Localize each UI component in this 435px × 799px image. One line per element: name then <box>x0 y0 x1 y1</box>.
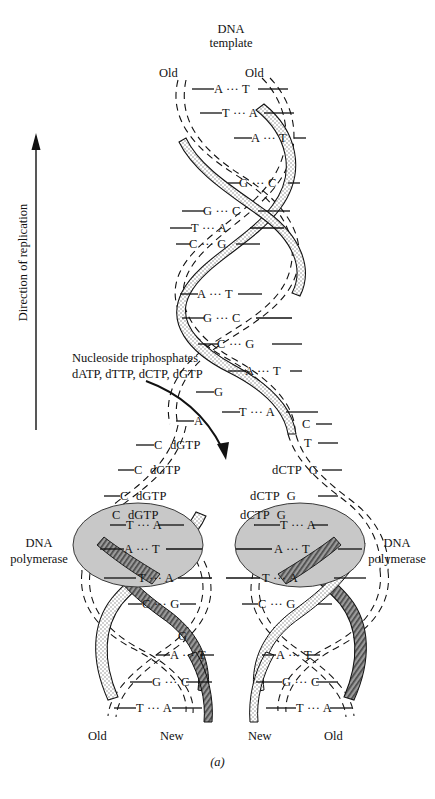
base-pair: G ··· C <box>239 176 277 191</box>
base-pair: A ··· T <box>251 131 287 146</box>
label-new-right-bottom: New <box>248 729 272 743</box>
direction-of-replication-label: Direction of replication <box>16 178 31 348</box>
base-pair: A ··· T <box>170 648 206 663</box>
nucleoside-triphosphates-annotation: Nucleoside triphosphates dATP, dTTP, dCT… <box>72 350 203 383</box>
base-pair: T ··· A <box>222 106 258 121</box>
panel-letter: (a) <box>0 755 435 770</box>
base-pair: T ··· A <box>296 701 332 716</box>
label-old-left-top: Old <box>159 66 178 80</box>
label-old-right-bottom: Old <box>324 729 343 743</box>
unpaired-base-with-reagent: C dGTP <box>134 463 181 478</box>
base-pair: A ··· T <box>245 364 281 379</box>
unpaired-base: A <box>194 414 203 429</box>
base-pair: T ··· A <box>280 518 316 533</box>
dna-polymerase-label-right: DNA polymerase <box>364 536 430 567</box>
direction-of-replication-arrow <box>32 133 41 430</box>
label-old-left-bottom: Old <box>88 729 107 743</box>
unpaired-base: T <box>304 436 312 451</box>
unpaired-base: G <box>178 629 187 644</box>
unpaired-base-with-reagent: dCTP G <box>250 489 296 504</box>
base-pair: T ··· A <box>126 518 162 533</box>
base-pair: C ··· G <box>217 337 255 352</box>
base-pair: G ··· C <box>203 311 241 326</box>
base-pair: T ··· A <box>239 405 275 420</box>
dna-replication-figure: DNA template Old Old Direction of replic… <box>0 0 435 799</box>
base-pair: T ··· A <box>262 571 298 586</box>
unpaired-base-with-reagent: dCTP G <box>272 463 318 478</box>
base-pair: C ··· G <box>258 597 296 612</box>
unpaired-base-with-reagent: C dGTP <box>120 489 167 504</box>
dna-polymerase-label-left: DNA polymerase <box>8 536 70 567</box>
base-pair: A ··· T <box>276 648 312 663</box>
label-old-right-top: Old <box>245 66 264 80</box>
base-pair: A ··· T <box>124 542 160 557</box>
base-pair: G ··· C <box>152 675 190 690</box>
base-pair: C ··· G <box>142 597 180 612</box>
base-pair: A ··· T <box>197 287 233 302</box>
base-pair: A ··· T <box>214 82 250 97</box>
unpaired-base: G <box>214 385 223 400</box>
base-pair: T ··· A <box>136 701 172 716</box>
base-pair: G ··· C <box>282 675 320 690</box>
label-new-left-bottom: New <box>160 729 184 743</box>
base-pair: A ··· T <box>274 542 310 557</box>
base-pair: T ··· A <box>138 571 174 586</box>
base-pair: C ··· G <box>189 237 227 252</box>
unpaired-base: C <box>302 417 311 432</box>
base-pair: T ··· A <box>191 221 227 236</box>
unpaired-base-with-reagent: C dGTP <box>154 438 201 453</box>
dna-template-title: DNA template <box>196 22 266 50</box>
base-pair: G ··· C <box>203 204 241 219</box>
